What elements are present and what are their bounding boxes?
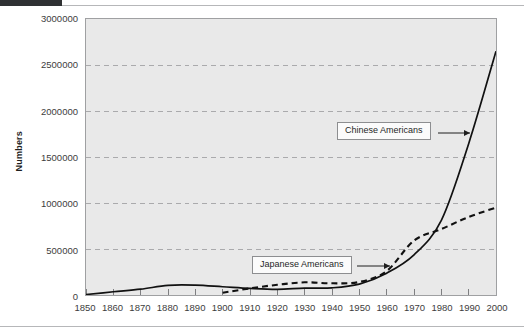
- y-tick-label: 1000000: [4, 198, 78, 209]
- x-tick-label: 1940: [322, 302, 343, 313]
- y-axis-tick-labels: 0500000100000015000002000000250000030000…: [0, 0, 78, 333]
- x-tick-label: 1960: [377, 302, 398, 313]
- y-tick-label: 0: [4, 291, 78, 302]
- y-tick-label: 2000000: [4, 105, 78, 116]
- x-tick-label: 1860: [102, 302, 123, 313]
- x-tick-label: 1880: [157, 302, 178, 313]
- x-tick-label: 1910: [239, 302, 260, 313]
- x-tick-label: 2000: [486, 302, 507, 313]
- figure-root: Numbers 05000001000000150000020000002500…: [0, 0, 524, 333]
- plot-area: [85, 18, 497, 296]
- chart-canvas: [86, 19, 496, 295]
- y-tick-label: 1500000: [4, 152, 78, 163]
- x-tick-label: 1990: [459, 302, 480, 313]
- y-tick-label: 500000: [4, 244, 78, 255]
- top-horizontal-rule: [62, 5, 524, 6]
- annotation-chinese-americans: Chinese Americans: [337, 122, 431, 140]
- annotation-japanese-americans: Japanese Americans: [252, 256, 352, 274]
- x-tick-label: 1930: [294, 302, 315, 313]
- x-tick-label: 1980: [431, 302, 452, 313]
- bottom-horizontal-rule: [0, 326, 524, 327]
- x-tick-label: 1870: [129, 302, 150, 313]
- y-tick-label: 2500000: [4, 59, 78, 70]
- y-tick-label: 3000000: [4, 13, 78, 24]
- x-tick-label: 1900: [212, 302, 233, 313]
- x-tick-label: 1850: [74, 302, 95, 313]
- x-tick-label: 1890: [184, 302, 205, 313]
- x-tick-label: 1920: [267, 302, 288, 313]
- x-tick-label: 1970: [404, 302, 425, 313]
- x-tick-label: 1950: [349, 302, 370, 313]
